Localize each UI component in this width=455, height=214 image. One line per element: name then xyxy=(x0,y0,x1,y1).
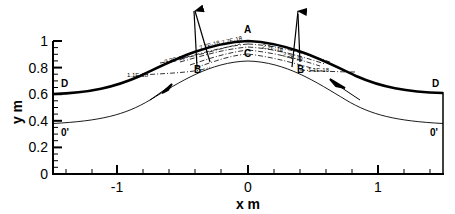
label-b-left: B xyxy=(194,64,201,75)
x-axis-label: x m xyxy=(236,196,260,212)
contour-label: 1.1E-18 xyxy=(308,67,330,73)
label-0-prime-left: 0' xyxy=(61,127,69,138)
arrow-shaft xyxy=(194,11,197,67)
y-tick-label: 0.2 xyxy=(29,139,49,155)
y-ticks xyxy=(53,41,62,174)
curve-0-prime xyxy=(53,61,443,124)
x-tick-label: 0 xyxy=(244,179,252,195)
y-tick-label: 0 xyxy=(40,166,48,182)
chart-container: 0 0.2 0.4 0.6 0.8 1 -1 0 1 x m y m 1.1E-… xyxy=(0,0,455,214)
y-tick-label: 0.6 xyxy=(29,86,49,102)
x-tick-label: 1 xyxy=(374,179,382,195)
contour-label: 1.1E-18 xyxy=(127,72,149,78)
arrowhead-icon xyxy=(162,84,172,93)
y-tick-label: 0.4 xyxy=(29,113,49,129)
label-0-prime-right: 0' xyxy=(430,127,438,138)
x-tick-label: -1 xyxy=(111,179,124,195)
label-a: A xyxy=(244,24,251,35)
y-axis-label: y m xyxy=(9,100,25,124)
label-d-right: D xyxy=(432,78,439,89)
label-d-left: D xyxy=(61,78,68,89)
chart-svg: 0 0.2 0.4 0.6 0.8 1 -1 0 1 x m y m 1.1E-… xyxy=(0,0,455,214)
label-c: C xyxy=(244,48,251,59)
y-tick-labels: 0 0.2 0.4 0.6 0.8 1 xyxy=(29,33,49,182)
x-ticks xyxy=(66,165,430,174)
arrowhead-icon xyxy=(330,79,345,88)
x-tick-labels: -1 0 1 xyxy=(111,179,382,195)
y-tick-label: 0.8 xyxy=(29,60,49,76)
label-b-right: B xyxy=(297,64,304,75)
contour-label: 3.3E-18 xyxy=(164,54,186,65)
y-tick-label: 1 xyxy=(40,33,48,49)
